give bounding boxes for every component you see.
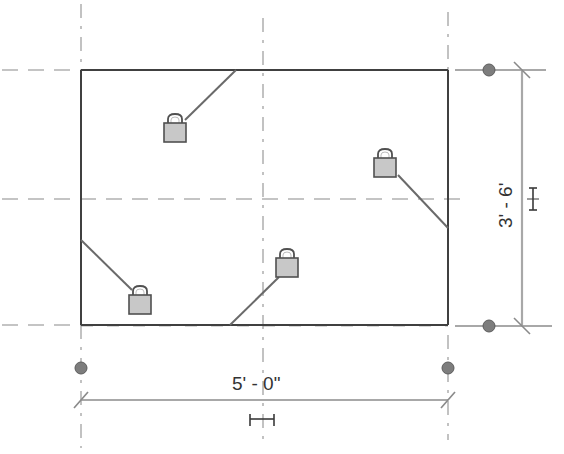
equality-constraint-icon[interactable]: [250, 414, 274, 426]
padlock-icon[interactable]: [276, 249, 298, 277]
dimension-width[interactable]: 5' - 0": [74, 373, 455, 426]
grip-top-right[interactable]: [483, 64, 495, 76]
equality-constraint-icon[interactable]: [527, 188, 539, 210]
leader-right: [398, 175, 448, 228]
grips: [75, 64, 495, 374]
leader-left: [81, 240, 132, 290]
grip-bottom-right-lower[interactable]: [442, 362, 454, 374]
padlock-icon[interactable]: [129, 286, 151, 314]
padlock-icon[interactable]: [164, 114, 186, 142]
padlock-icon[interactable]: [374, 149, 396, 177]
grip-bottom-right[interactable]: [483, 320, 495, 332]
dimension-height-label[interactable]: 3' - 6': [495, 183, 516, 228]
grip-bottom-left[interactable]: [75, 362, 87, 374]
dimension-width-label[interactable]: 5' - 0": [232, 373, 280, 394]
dimension-height[interactable]: 3' - 6': [455, 62, 552, 334]
leader-top: [185, 70, 236, 120]
leader-bottom: [230, 277, 279, 325]
drawing-canvas[interactable]: 3' - 6' 5' - 0": [0, 0, 564, 454]
